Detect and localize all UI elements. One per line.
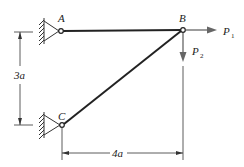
dimension-label-3a: 3a — [13, 69, 26, 81]
hinge-b — [181, 28, 186, 33]
wall-support-c — [39, 112, 60, 139]
node-label-c: C — [58, 110, 66, 122]
member-cb — [64, 31, 181, 124]
dimension-horizontal — [62, 66, 183, 160]
load-label-p2: P — [191, 45, 199, 57]
load-arrow-p2 — [180, 33, 187, 62]
load-subscript-p2: 2 — [200, 52, 204, 60]
node-label-b: B — [179, 12, 186, 24]
hinge-a — [59, 29, 64, 34]
load-label-p1: P — [222, 25, 230, 37]
load-arrow-p1 — [186, 27, 217, 34]
hinge-c — [60, 123, 65, 128]
node-label-a: A — [57, 12, 65, 24]
dimension-label-4a: 4a — [112, 147, 124, 159]
wall-support-a — [39, 18, 59, 45]
member-ab — [63, 30, 181, 31]
load-subscript-p1: 1 — [231, 32, 235, 40]
truss-diagram: A B C P 1 P 2 3a 4a — [0, 0, 244, 167]
